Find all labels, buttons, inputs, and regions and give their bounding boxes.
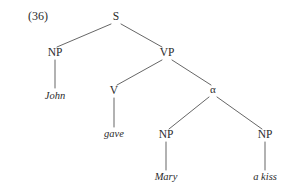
- syntax-tree-figure: (36) S NP VP V α NP NP John gave Mary a …: [0, 0, 286, 189]
- edge-vp-to-alpha: [172, 60, 211, 85]
- terminal-gave: gave: [104, 128, 124, 139]
- tree-stems: [55, 60, 265, 170]
- node-np-indirect-object: NP: [159, 128, 174, 140]
- node-np-direct-object: NP: [258, 128, 273, 140]
- edge-s-to-vp: [121, 24, 162, 47]
- node-np-subject: NP: [48, 46, 63, 58]
- tree-nodes: S NP VP V α NP NP: [48, 10, 273, 140]
- node-s: S: [113, 10, 119, 22]
- terminal-mary: Mary: [154, 171, 178, 182]
- edge-alpha-to-np-direct-object: [217, 97, 262, 129]
- node-vp: VP: [160, 46, 175, 58]
- terminal-john: John: [45, 90, 65, 101]
- edge-alpha-to-np-indirect-object: [169, 97, 209, 129]
- edge-s-to-np-subject: [57, 24, 111, 47]
- example-number-label: (36): [28, 9, 48, 23]
- edge-vp-to-v: [117, 60, 162, 85]
- tree-edges: [57, 24, 262, 129]
- terminal-a-kiss: a kiss: [253, 171, 277, 182]
- node-alpha: α: [210, 83, 216, 95]
- node-v: V: [110, 84, 119, 96]
